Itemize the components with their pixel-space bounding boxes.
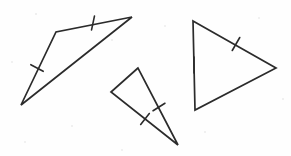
scan-speck xyxy=(282,98,284,100)
scan-speck xyxy=(258,17,260,19)
scan-speck xyxy=(35,13,37,15)
scan-speck xyxy=(71,125,73,127)
scan-speck xyxy=(164,25,166,27)
scan-speck xyxy=(121,149,123,151)
scan-speck xyxy=(24,141,26,143)
scan-speck xyxy=(11,61,13,63)
figure-background xyxy=(0,0,291,156)
scan-speck xyxy=(111,39,113,41)
triangles-diagram xyxy=(0,0,291,156)
scan-speck xyxy=(204,131,206,133)
figure-canvas xyxy=(0,0,291,156)
